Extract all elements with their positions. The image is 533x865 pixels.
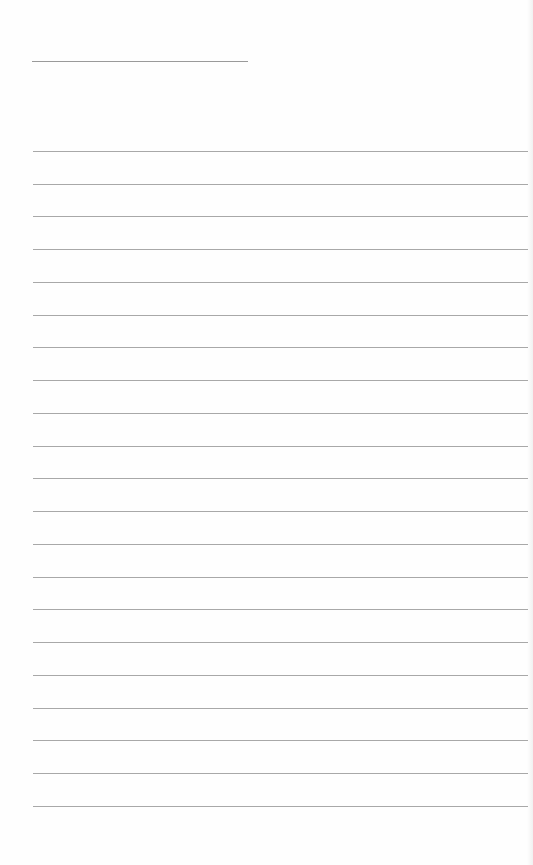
- ruled-line: [33, 544, 528, 545]
- page-edge-shadow: [527, 0, 533, 865]
- ruled-line: [33, 249, 528, 250]
- ruled-line: [33, 184, 528, 185]
- ruled-line: [33, 675, 528, 676]
- ruled-line: [33, 708, 528, 709]
- lined-page: [0, 0, 533, 865]
- ruled-line: [33, 282, 528, 283]
- ruled-line: [33, 380, 528, 381]
- name-line: [32, 61, 248, 62]
- ruled-line: [33, 478, 528, 479]
- ruled-line: [33, 609, 528, 610]
- ruled-line: [33, 773, 528, 774]
- ruled-line: [33, 216, 528, 217]
- ruled-line: [33, 740, 528, 741]
- ruled-line: [33, 347, 528, 348]
- ruled-line: [33, 806, 528, 807]
- ruled-line: [33, 315, 528, 316]
- ruled-line: [33, 511, 528, 512]
- ruled-line: [33, 446, 528, 447]
- ruled-line: [33, 413, 528, 414]
- ruled-line: [33, 642, 528, 643]
- ruled-line: [33, 577, 528, 578]
- ruled-line: [33, 151, 528, 152]
